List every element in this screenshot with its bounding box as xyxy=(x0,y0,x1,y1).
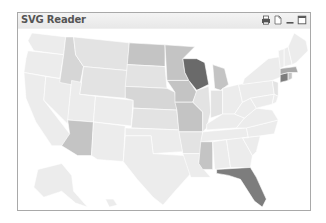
minimize-icon[interactable] xyxy=(285,15,295,25)
state-ks[interactable] xyxy=(131,108,179,130)
state-sd[interactable] xyxy=(125,65,167,89)
state-hi[interactable] xyxy=(105,199,117,207)
map-area xyxy=(18,29,310,210)
state-ar[interactable] xyxy=(179,132,203,154)
state-ne[interactable] xyxy=(125,86,177,110)
state-me[interactable] xyxy=(288,33,308,65)
state-co[interactable] xyxy=(93,96,133,126)
state-ri[interactable] xyxy=(288,73,292,81)
window-controls xyxy=(261,15,307,25)
svg-reader-window: SVG Reader xyxy=(17,12,311,211)
window-title: SVG Reader xyxy=(21,14,86,25)
state-fl[interactable] xyxy=(217,167,267,207)
state-in[interactable] xyxy=(211,90,223,118)
state-nd[interactable] xyxy=(127,43,165,67)
print-icon[interactable] xyxy=(261,15,271,25)
state-ms[interactable] xyxy=(199,142,213,170)
export-icon[interactable] xyxy=(273,15,283,25)
window-titlebar[interactable]: SVG Reader xyxy=(18,13,310,29)
state-mi[interactable] xyxy=(213,65,229,91)
state-ny[interactable] xyxy=(242,57,282,85)
state-ak[interactable] xyxy=(34,164,88,208)
state-nm[interactable] xyxy=(91,122,125,162)
state-wy[interactable] xyxy=(80,67,128,99)
maximize-icon[interactable] xyxy=(297,15,307,25)
us-choropleth-map xyxy=(18,29,310,210)
